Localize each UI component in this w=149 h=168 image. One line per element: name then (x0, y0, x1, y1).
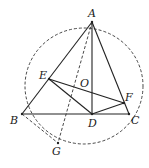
segment-ac (92, 22, 129, 114)
point-d (91, 113, 93, 115)
segment-ab (22, 22, 92, 114)
point-e (48, 78, 50, 80)
segment-bg (22, 114, 58, 143)
point-a (91, 21, 93, 23)
label-d: D (87, 117, 97, 130)
label-o: O (80, 77, 89, 90)
label-g: G (52, 145, 61, 158)
label-b: B (9, 114, 18, 127)
point-c (128, 113, 130, 115)
point-b (21, 113, 23, 115)
label-c: C (131, 114, 140, 127)
segment-df (92, 103, 124, 114)
point-g (57, 142, 59, 144)
label-e: E (38, 69, 47, 82)
geometry-diagram: A B C D E F G O (0, 0, 149, 168)
label-f: F (124, 91, 133, 104)
label-a: A (87, 7, 96, 20)
